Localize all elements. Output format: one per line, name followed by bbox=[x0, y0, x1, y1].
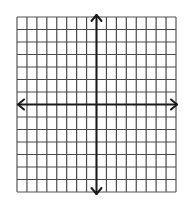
coordinate-plane bbox=[0, 0, 184, 203]
